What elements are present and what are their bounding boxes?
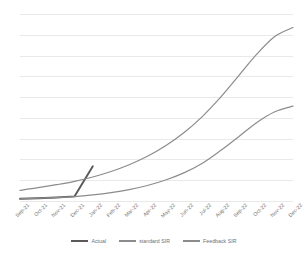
x-tick-label: May-22	[159, 202, 176, 219]
x-axis-tick-labels: Sep-21Oct-21Nov-21Dec-21Jan-22Feb-22Mar-…	[20, 202, 293, 236]
x-tick-label: Dec-21	[69, 202, 85, 218]
x-tick-label: Oct-22	[251, 202, 266, 217]
chart-legend: Actualstandard SIRFeedback SIR	[0, 238, 308, 244]
legend-item[interactable]: Feedback SIR	[183, 238, 236, 244]
legend-color-swatch	[119, 240, 136, 241]
x-tick-label: Sep-21	[14, 202, 30, 218]
series-line	[20, 166, 93, 199]
x-tick-label: Oct-21	[33, 202, 48, 217]
x-tick-label: Dec-22	[287, 202, 303, 218]
x-tick-label: Nov-21	[50, 202, 66, 218]
series-line	[20, 28, 293, 191]
x-tick-label: Aug-22	[214, 202, 230, 218]
plot-area	[20, 14, 293, 202]
series-lines	[20, 14, 293, 202]
legend-label: standard SIR	[139, 238, 170, 244]
x-tick-label: Feb-22	[105, 202, 121, 218]
legend-label: Actual	[91, 238, 106, 244]
series-line	[20, 106, 293, 199]
x-tick-label: Jun-22	[178, 202, 194, 218]
legend-item[interactable]: standard SIR	[119, 238, 170, 244]
x-tick-label: Apr-22	[142, 202, 157, 217]
legend-label: Feedback SIR	[203, 238, 236, 244]
legend-item[interactable]: Actual	[71, 238, 106, 244]
x-tick-label: Sep-22	[232, 202, 248, 218]
x-tick-label: Nov-22	[269, 202, 285, 218]
x-tick-label: Mar-22	[123, 202, 139, 218]
x-tick-label: Jul-22	[198, 202, 212, 216]
legend-color-swatch	[183, 240, 200, 241]
legend-color-swatch	[71, 240, 88, 242]
x-tick-label: Jan-22	[87, 202, 103, 218]
line-chart: Sep-21Oct-21Nov-21Dec-21Jan-22Feb-22Mar-…	[0, 0, 308, 260]
